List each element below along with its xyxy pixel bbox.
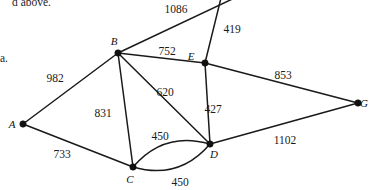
vertex-label-A: A [8, 118, 16, 130]
edge-weight-E-G: 853 [274, 69, 292, 81]
edge-weight-B-D: 620 [156, 86, 174, 98]
figure-canvas: d above. a. 9827338316207521086419427853… [0, 0, 372, 190]
vertex-label-B: B [111, 35, 118, 47]
weighted-graph-diagram: 98273383162075210864194278531102450450 A… [0, 0, 372, 190]
vertex-B [115, 50, 121, 56]
edge-weight-B-top: 1086 [165, 3, 188, 15]
edge-weight-C-D-b: 450 [171, 176, 189, 188]
edge-C-D-b [133, 144, 210, 171]
edges-layer [23, 0, 358, 171]
edge-weight-E-top: 419 [223, 23, 241, 35]
vertex-D [207, 141, 213, 147]
edge-B-C [118, 53, 133, 167]
edge-A-C [23, 124, 133, 167]
edge-weight-E-D: 427 [204, 103, 222, 115]
vertex-C [130, 164, 136, 170]
vertex-label-C: C [126, 173, 134, 185]
edge-weight-labels-layer: 98273383162075210864194278531102450450 [46, 3, 296, 188]
vertex-A [20, 121, 26, 127]
vertex-label-E: E [187, 50, 195, 62]
edge-weight-C-D-a: 450 [151, 130, 169, 142]
edge-weight-D-G: 1102 [274, 134, 297, 146]
edge-E-top [205, 0, 222, 63]
edge-weight-A-B: 982 [46, 72, 64, 84]
edge-weight-B-C: 831 [94, 107, 112, 119]
edge-C-D-a [133, 140, 210, 167]
vertex-label-G: G [360, 97, 368, 109]
vertex-label-D: D [209, 148, 218, 160]
edge-weight-B-E: 752 [158, 45, 176, 57]
edge-weight-A-C: 733 [53, 148, 71, 160]
vertex-E [202, 60, 208, 66]
